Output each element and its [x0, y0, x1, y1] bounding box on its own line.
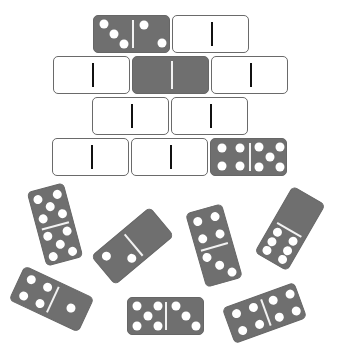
empty-domino-slot[interactable]	[171, 97, 248, 135]
domino-tile[interactable]	[93, 15, 170, 53]
pip-dot	[214, 259, 225, 270]
empty-domino-slot[interactable]	[52, 138, 129, 176]
pip-dot	[236, 162, 245, 171]
pip-dot	[255, 163, 264, 172]
loose-domino-a[interactable]	[27, 182, 84, 266]
pip-dot	[143, 312, 152, 321]
domino-half	[214, 16, 250, 52]
pip-dot	[192, 322, 201, 331]
domino-half	[135, 57, 171, 93]
loose-domino-g[interactable]	[221, 282, 306, 344]
pip-dot	[52, 188, 63, 199]
pip-dot	[55, 238, 66, 249]
domino-half	[56, 57, 92, 93]
pip-dot	[236, 325, 248, 337]
pip-dot	[67, 245, 78, 256]
domino-half	[173, 139, 209, 175]
empty-domino-slot[interactable]	[131, 138, 208, 176]
domino-half	[95, 98, 131, 134]
pip-dot	[64, 302, 76, 314]
pip-dot	[214, 228, 225, 239]
domino-tile[interactable]	[210, 138, 287, 176]
pip-dot	[210, 211, 221, 222]
pip-dot	[271, 225, 283, 237]
pip-dot	[265, 153, 274, 162]
pip-dot	[157, 39, 166, 48]
pip-dot	[62, 225, 73, 236]
pip-dot	[275, 163, 284, 172]
empty-domino-slot[interactable]	[211, 56, 288, 94]
domino-half	[174, 57, 210, 93]
pip-dot	[153, 322, 162, 331]
pip-dot	[17, 290, 29, 302]
pip-dot	[192, 215, 203, 226]
pip-dot	[139, 21, 148, 30]
pip-dot	[38, 213, 49, 224]
pip-dot	[133, 322, 142, 331]
pip-dot	[290, 305, 302, 317]
pip-dot	[48, 250, 59, 261]
pip-dot	[120, 40, 129, 49]
loose-domino-e[interactable]	[8, 266, 94, 333]
pip-dot	[230, 308, 242, 320]
pip-dot	[266, 295, 278, 307]
domino-half	[213, 139, 249, 175]
loose-domino-c[interactable]	[185, 203, 243, 287]
empty-domino-slot[interactable]	[172, 15, 249, 53]
pip-dot	[247, 302, 259, 314]
pip-dot	[182, 312, 191, 321]
domino-half	[214, 57, 250, 93]
pip-dot	[45, 201, 56, 212]
pip-dot	[99, 19, 108, 28]
pip-dot	[57, 208, 68, 219]
domino-half	[252, 139, 288, 175]
loose-domino-b[interactable]	[90, 207, 173, 286]
loose-domino-f[interactable]	[127, 297, 204, 335]
pip-dot	[273, 312, 285, 324]
pip-dot	[275, 142, 284, 151]
loose-domino-d[interactable]	[254, 185, 325, 271]
pip-dot	[110, 30, 119, 39]
domino-tile[interactable]	[132, 56, 209, 94]
pip-dot	[42, 231, 53, 242]
domino-half	[253, 57, 289, 93]
domino-half	[134, 139, 170, 175]
pip-dot	[255, 142, 264, 151]
pip-dot	[153, 301, 162, 310]
empty-domino-slot[interactable]	[92, 97, 169, 135]
domino-half	[135, 16, 171, 52]
pip-dot	[125, 252, 138, 265]
domino-half	[94, 139, 130, 175]
domino-half	[55, 139, 91, 175]
domino-half	[175, 16, 211, 52]
domino-half	[96, 16, 132, 52]
pip-dot	[201, 252, 212, 263]
pip-dot	[226, 266, 237, 277]
pip-dot	[218, 144, 227, 153]
pip-dot	[287, 234, 299, 246]
pip-dot	[171, 301, 180, 310]
domino-half	[213, 98, 249, 134]
domino-half	[134, 98, 170, 134]
domino-half	[168, 298, 204, 334]
pip-dot	[133, 301, 142, 310]
pip-dot	[25, 274, 37, 286]
domino-half	[130, 298, 166, 334]
pip-dot	[283, 289, 295, 301]
pip-dot	[236, 144, 245, 153]
pip-dot	[197, 233, 208, 244]
domino-half	[95, 57, 131, 93]
pip-dot	[218, 162, 227, 171]
pip-dot	[253, 319, 265, 331]
pip-dot	[34, 298, 46, 310]
pip-dot	[41, 281, 53, 293]
empty-domino-slot[interactable]	[53, 56, 130, 94]
domino-half	[174, 98, 210, 134]
pip-dot	[32, 193, 43, 204]
pip-dot	[100, 250, 113, 263]
